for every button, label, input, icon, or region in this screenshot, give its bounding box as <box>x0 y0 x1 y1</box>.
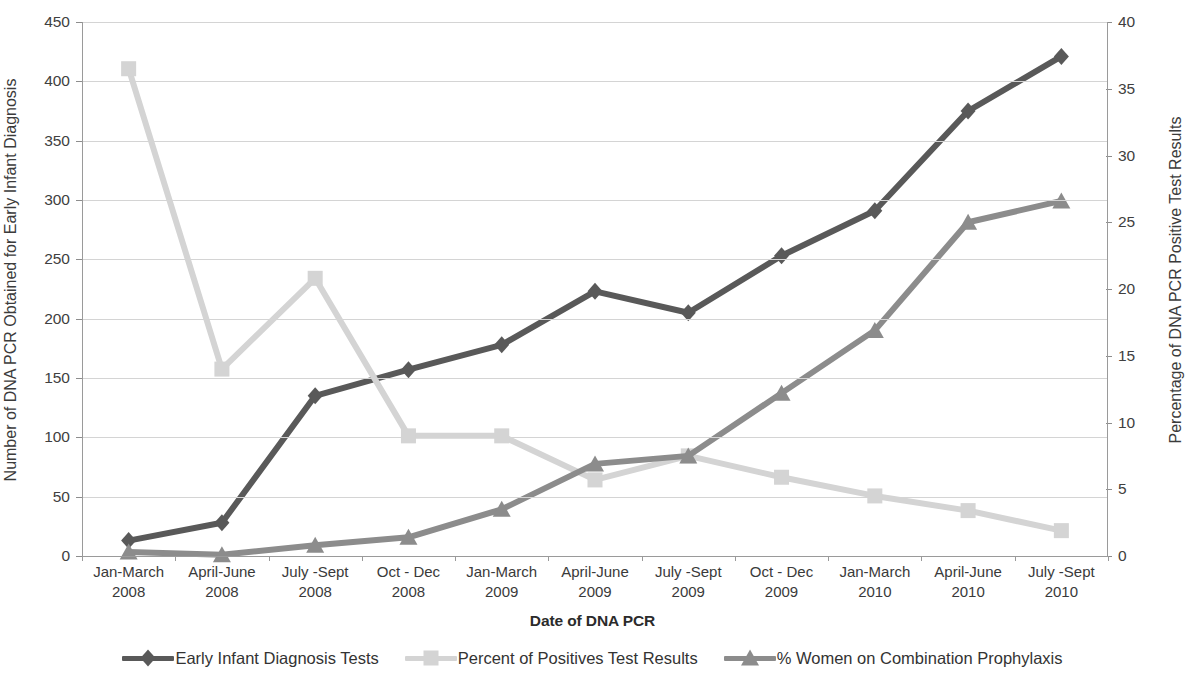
gridline <box>82 437 1108 438</box>
x-tickmark <box>828 556 829 561</box>
legend-label: % Women on Combination Prophylaxis <box>777 649 1063 668</box>
gridline <box>82 319 1108 320</box>
x-tickmark <box>82 556 83 561</box>
data-point-marker <box>1054 523 1069 538</box>
tick-label: 50 <box>26 489 70 505</box>
gridline <box>82 497 1108 498</box>
legend-label: Percent of Positives Test Results <box>458 649 698 668</box>
data-point-marker <box>141 650 156 667</box>
data-point-marker <box>121 61 136 76</box>
gridline <box>82 22 1108 23</box>
data-point-marker <box>588 472 603 487</box>
legend-swatch-square-icon <box>405 648 457 668</box>
tick-label: 0 <box>1118 548 1158 564</box>
tick-label: 100 <box>26 429 70 445</box>
tick-label: 0 <box>26 548 70 564</box>
tick-label: 400 <box>26 73 70 89</box>
x-tick-label: July -Sept2010 <box>1001 562 1121 602</box>
x-tickmark <box>548 556 549 561</box>
gridline <box>82 200 1108 201</box>
y-axis-right-title-text: Percentage of DNA PCR Positive Test Resu… <box>1167 117 1185 444</box>
tick-label: 30 <box>1118 148 1158 164</box>
data-point-marker <box>214 362 229 377</box>
legend-swatch-diamond-icon <box>122 648 174 668</box>
axis-line-left <box>82 22 83 556</box>
gridline <box>82 556 1108 557</box>
gridline <box>82 81 1108 82</box>
y-axis-left-ticks: 050100150200250300350400450 <box>26 0 76 580</box>
x-tickmark <box>362 556 363 561</box>
x-axis-title: Date of DNA PCR <box>0 612 1185 630</box>
data-point-marker <box>423 651 438 666</box>
gridline <box>82 259 1108 260</box>
x-tickmark <box>642 556 643 561</box>
data-point-marker <box>401 428 416 443</box>
y-axis-left-title: Number of DNA PCR Obtained for Early Inf… <box>0 0 24 560</box>
legend-item[interactable]: Percent of Positives Test Results <box>405 648 698 668</box>
x-tickmark <box>455 556 456 561</box>
y-axis-left-title-text: Number of DNA PCR Obtained for Early Inf… <box>2 79 20 482</box>
tick-label: 35 <box>1118 81 1158 97</box>
tick-label: 200 <box>26 311 70 327</box>
tick-label: 40 <box>1118 14 1158 30</box>
x-tickmark <box>735 556 736 561</box>
gridline <box>82 378 1108 379</box>
data-point-marker <box>308 271 323 286</box>
tick-label: 5 <box>1118 481 1158 497</box>
gridline <box>82 141 1108 142</box>
data-point-marker <box>401 361 416 378</box>
data-point-marker <box>961 503 976 518</box>
tick-label: 25 <box>1118 214 1158 230</box>
tick-label: 300 <box>26 192 70 208</box>
x-tickmark <box>1015 556 1016 561</box>
tick-label: 20 <box>1118 281 1158 297</box>
chart-legend: Early Infant Diagnosis TestsPercent of P… <box>0 648 1185 668</box>
x-tickmark <box>921 556 922 561</box>
x-tickmark <box>175 556 176 561</box>
data-point-marker <box>494 428 509 443</box>
x-tickmark <box>269 556 270 561</box>
tick-label: 450 <box>26 14 70 30</box>
tick-label: 10 <box>1118 415 1158 431</box>
tick-label: 15 <box>1118 348 1158 364</box>
tick-label: 350 <box>26 133 70 149</box>
series-lines <box>82 22 1108 556</box>
y-axis-right-ticks: 0510152025303540 <box>1112 0 1158 580</box>
y-axis-right-title: Percentage of DNA PCR Positive Test Resu… <box>1163 0 1185 560</box>
axis-line-right <box>1107 22 1108 556</box>
plot-area <box>82 22 1108 556</box>
chart-canvas: Number of DNA PCR Obtained for Early Inf… <box>0 0 1185 683</box>
data-point-marker <box>774 470 789 485</box>
legend-swatch-triangle-icon <box>724 648 776 668</box>
tick-label: 250 <box>26 251 70 267</box>
legend-item[interactable]: % Women on Combination Prophylaxis <box>724 648 1063 668</box>
tick-label: 150 <box>26 370 70 386</box>
legend-label: Early Infant Diagnosis Tests <box>175 649 378 668</box>
legend-item[interactable]: Early Infant Diagnosis Tests <box>122 648 378 668</box>
data-point-marker <box>741 650 759 666</box>
x-axis-tick-labels: Jan-March2008April-June2008July -Sept200… <box>82 562 1108 610</box>
x-tickmark <box>1108 556 1109 561</box>
